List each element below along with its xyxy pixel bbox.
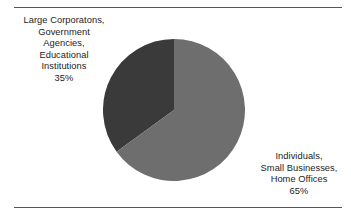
- pie-svg: [103, 39, 245, 181]
- pie-label-left-line-4: Educational: [11, 50, 117, 62]
- pie-chart-figure: Large Corporatons, Government Agencies, …: [0, 0, 351, 217]
- pie-label-left-line-3: Agencies,: [11, 38, 117, 50]
- pie-label-left-line-1: Large Corporatons,: [11, 15, 117, 27]
- pie-label-right-line-2: Small Businesses,: [251, 163, 347, 175]
- top-divider-rule: [14, 7, 342, 8]
- pie-label-individuals: Individuals, Small Businesses, Home Offi…: [251, 151, 347, 197]
- pie-label-left-line-2: Government: [11, 27, 117, 39]
- bottom-divider-rule: [14, 207, 342, 208]
- pie-label-left-line-5: Institutions: [11, 61, 117, 73]
- pie-chart-graphic: [103, 39, 245, 181]
- pie-label-large-corporations: Large Corporatons, Government Agencies, …: [11, 15, 117, 85]
- pie-label-left-percent: 35%: [11, 73, 117, 85]
- pie-label-right-line-3: Home Offices: [251, 174, 347, 186]
- pie-label-right-percent: 65%: [251, 186, 347, 198]
- pie-label-right-line-1: Individuals,: [251, 151, 347, 163]
